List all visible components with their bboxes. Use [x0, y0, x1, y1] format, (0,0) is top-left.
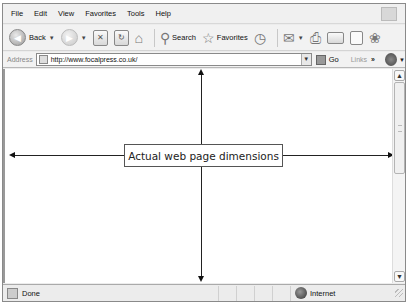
favorites-label: Favorites — [217, 33, 248, 42]
address-label: Address — [7, 56, 33, 63]
chevron-down-icon[interactable]: ▼ — [298, 35, 304, 41]
search-button[interactable]: ⚲ Search — [160, 31, 196, 45]
favorites-button[interactable]: ☆ Favorites — [202, 31, 248, 45]
toolbar-separator — [154, 29, 155, 47]
status-pane — [218, 286, 236, 301]
grip-icon — [398, 125, 402, 132]
chevron-down-icon[interactable]: ▼ — [49, 35, 55, 41]
toolbar-separator — [277, 29, 278, 47]
menu-tools[interactable]: Tools — [127, 9, 145, 18]
vertical-scrollbar[interactable]: ▲ ▼ — [392, 69, 405, 283]
globe-icon — [295, 287, 307, 299]
discuss-button[interactable] — [350, 31, 363, 45]
chevron-down-icon[interactable]: ▼ — [301, 54, 311, 65]
standard-toolbar: ◀ Back ▼ ▶ ▼ ✕ ↻ ⌂ ⚲ Search ☆ Favorites … — [3, 25, 405, 51]
menu-edit[interactable]: Edit — [34, 9, 47, 18]
refresh-button[interactable]: ↻ — [114, 30, 129, 46]
menu-view[interactable]: View — [58, 9, 74, 18]
links-toolbar[interactable]: Links» — [351, 56, 375, 63]
back-icon: ◀ — [9, 29, 26, 46]
menu-file[interactable]: File — [11, 9, 23, 18]
status-pane — [236, 286, 254, 301]
scroll-up-button[interactable]: ▲ — [394, 70, 405, 81]
windows-logo-icon — [381, 7, 397, 21]
chevron-down-icon[interactable]: ▼ — [81, 35, 87, 41]
address-url: http://www.focalpress.co.uk/ — [51, 56, 138, 63]
dimensions-annotation: Actual web page dimensions — [124, 144, 283, 167]
security-zone[interactable]: Internet — [290, 286, 386, 301]
go-button[interactable]: Go — [316, 55, 339, 65]
history-icon: ◷ — [254, 31, 266, 45]
browser-window: File Edit View Favorites Tools Help ◀ Ba… — [2, 3, 406, 302]
scroll-down-button[interactable]: ▼ — [394, 271, 405, 282]
search-label: Search — [172, 33, 196, 42]
print-button[interactable]: ⎙ — [310, 31, 321, 45]
home-icon: ⌂ — [135, 31, 143, 45]
arrow-left-icon — [9, 152, 15, 158]
forward-button[interactable]: ▶ ▼ — [61, 29, 87, 46]
arrow-down-icon — [198, 276, 204, 282]
home-button[interactable]: ⌂ — [135, 31, 143, 45]
mail-button[interactable]: ✉ ▼ — [283, 31, 304, 45]
back-button[interactable]: ◀ Back ▼ — [9, 29, 55, 46]
stop-button[interactable]: ✕ — [93, 30, 108, 46]
menu-bar: File Edit View Favorites Tools Help — [3, 4, 405, 24]
edit-button[interactable] — [327, 32, 344, 44]
stop-icon: ✕ — [93, 30, 108, 46]
forward-icon: ▶ — [61, 29, 78, 46]
menu-help[interactable]: Help — [156, 9, 171, 18]
chevron-more-icon[interactable]: » — [371, 56, 375, 63]
mail-icon: ✉ — [283, 31, 295, 45]
zone-text: Internet — [310, 289, 335, 298]
go-label: Go — [329, 55, 339, 64]
messenger-button[interactable]: ❀ — [369, 31, 381, 45]
page-content: Actual web page dimensions — [3, 69, 392, 283]
search-icon: ⚲ — [160, 31, 170, 45]
status-text: Done — [22, 289, 218, 298]
discuss-icon — [350, 31, 363, 45]
status-pane — [254, 286, 272, 301]
back-label: Back — [29, 33, 46, 42]
status-pane — [272, 286, 290, 301]
go-arrow-icon — [316, 55, 326, 65]
page-status-icon — [7, 288, 18, 299]
refresh-icon: ↻ — [114, 30, 129, 46]
messenger-icon: ❀ — [369, 31, 381, 45]
print-icon: ⎙ — [310, 31, 321, 45]
scroll-thumb[interactable] — [394, 82, 405, 174]
arrow-up-icon — [198, 69, 204, 75]
page-icon — [39, 55, 48, 64]
status-bar: Done Internet — [3, 284, 405, 301]
history-button[interactable]: ◷ — [254, 31, 266, 45]
address-bar: Address http://www.focalpress.co.uk/ ▼ G… — [3, 52, 405, 68]
extension-icon[interactable] — [385, 53, 397, 66]
links-label: Links — [351, 56, 367, 63]
height-dimension-line — [201, 71, 202, 279]
menu-favorites[interactable]: Favorites — [85, 9, 116, 18]
favorites-star-icon: ☆ — [202, 31, 215, 45]
resize-grip-icon[interactable] — [395, 289, 403, 297]
edit-icon — [327, 32, 344, 44]
chevron-down-icon[interactable]: ▼ — [399, 57, 405, 63]
address-input[interactable]: http://www.focalpress.co.uk/ ▼ — [36, 53, 312, 66]
